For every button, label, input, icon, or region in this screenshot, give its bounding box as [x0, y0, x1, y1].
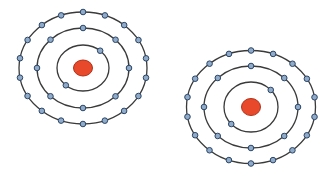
electron: [281, 75, 287, 81]
electron: [39, 108, 45, 114]
electron: [136, 37, 142, 43]
electron: [80, 9, 86, 15]
electron: [113, 94, 119, 100]
electron: [185, 114, 191, 120]
electron: [113, 37, 119, 43]
electron: [102, 13, 108, 19]
atom-right: [185, 48, 318, 167]
electron: [312, 94, 318, 100]
electron: [25, 37, 31, 43]
electron: [34, 65, 40, 71]
electron: [143, 75, 149, 81]
electron: [226, 51, 232, 57]
electron: [80, 121, 86, 127]
electron: [304, 76, 310, 82]
electron: [207, 147, 213, 153]
electron: [143, 56, 149, 62]
atom-diagram-canvas: [0, 0, 335, 173]
electron: [215, 133, 221, 139]
electron: [201, 104, 207, 110]
electron: [80, 25, 86, 31]
electron: [58, 13, 64, 19]
electron: [248, 161, 254, 167]
electron: [248, 48, 254, 54]
electron: [17, 75, 23, 81]
electron: [207, 61, 213, 67]
electron: [248, 145, 254, 151]
electron: [215, 75, 221, 81]
atom-left: [17, 9, 149, 127]
electron: [226, 157, 232, 163]
electron: [102, 118, 108, 124]
electron: [121, 108, 127, 114]
nucleus: [242, 99, 261, 116]
electron: [290, 148, 296, 154]
electron: [58, 118, 64, 124]
electron: [192, 76, 198, 82]
electron: [304, 132, 310, 138]
electron: [312, 114, 318, 120]
electron: [63, 82, 69, 88]
electron: [268, 87, 274, 93]
electron: [80, 105, 86, 111]
electron: [25, 93, 31, 99]
electron: [17, 55, 23, 61]
electron: [192, 132, 198, 138]
electron: [126, 65, 132, 71]
electron: [39, 22, 45, 28]
electron: [121, 22, 127, 28]
electron: [97, 48, 103, 54]
electron: [248, 63, 254, 69]
electron: [185, 94, 191, 100]
electron: [290, 61, 296, 67]
electron: [281, 133, 287, 139]
electron: [295, 104, 301, 110]
electron: [228, 121, 234, 127]
electron: [136, 93, 142, 99]
electron: [270, 51, 276, 57]
nucleus: [74, 60, 93, 76]
electron: [48, 93, 54, 99]
electron: [48, 37, 54, 43]
electron: [270, 157, 276, 163]
